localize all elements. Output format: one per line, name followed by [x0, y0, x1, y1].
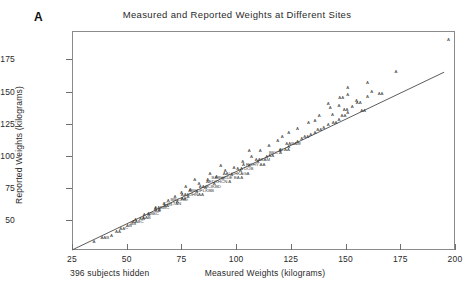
data-point-marker: A [110, 234, 113, 238]
x-axis-tick-mark [72, 244, 73, 250]
data-point-marker: A [447, 38, 450, 42]
x-axis-tick-label: 200 [448, 254, 463, 264]
data-point-marker: A [307, 120, 310, 124]
data-point-marker: A [351, 105, 354, 109]
data-point-marker: A [276, 138, 279, 142]
data-point-marker: A [219, 164, 222, 168]
data-point-marker: A [327, 102, 330, 106]
x-axis-tick-label: 25 [67, 254, 77, 264]
data-point-marker: A [313, 119, 316, 123]
data-point-marker: A [180, 191, 183, 195]
data-point-marker: A [134, 218, 137, 222]
data-point-marker: A [338, 103, 341, 107]
data-point-marker: A [224, 169, 227, 173]
data-point-marker: A [327, 123, 330, 127]
data-point-marker: A [92, 240, 95, 244]
data-point-marker: A [322, 125, 325, 129]
data-point-marker: A [338, 118, 341, 122]
data-point-marker: A [167, 199, 170, 203]
data-point-marker: A [189, 187, 192, 191]
data-point-marker: A [184, 185, 187, 189]
y-axis-tick-label: 50 [0, 215, 15, 225]
x-axis-tick-label: 150 [338, 254, 353, 264]
x-axis-tick-mark [236, 244, 237, 250]
y-axis-tick-label: 75 [0, 183, 15, 193]
hidden-subjects-note: 396 subjects hidden [70, 268, 149, 278]
x-axis-tick-mark [346, 244, 347, 250]
y-axis-tick-mark [66, 92, 72, 93]
data-point-marker: A [215, 174, 218, 178]
data-point-marker: A [329, 106, 332, 110]
y-axis-tick-mark [66, 156, 72, 157]
chart-title: Measured and Reported Weights at Differe… [0, 9, 474, 20]
reference-line-layer [72, 31, 455, 250]
x-axis-label: Measured Weights (kilograms) [150, 268, 380, 278]
data-point-marker: A [394, 70, 397, 74]
x-axis-tick-label: 50 [122, 254, 132, 264]
data-point-marker: A A DOB [236, 167, 253, 171]
data-point-marker: A [143, 213, 146, 217]
data-point-marker: AABJHNAA [181, 192, 204, 196]
data-point-marker: A [318, 114, 321, 118]
data-point-marker: AA [378, 92, 384, 96]
data-point-marker: A [241, 160, 244, 164]
y-axis-tick-mark [66, 220, 72, 221]
y-axis-tick-label: 150 [0, 87, 15, 97]
data-point-marker: AA [343, 107, 349, 111]
data-point-marker: AAJKJKBD [199, 185, 221, 189]
data-point-marker: A [250, 155, 253, 159]
y-axis-tick-mark [66, 59, 72, 60]
data-point-marker: A [346, 93, 349, 97]
y-axis-tick-mark [66, 188, 72, 189]
data-point-marker: A [233, 165, 236, 169]
data-point-marker: A [154, 207, 157, 211]
data-point-marker: A [193, 178, 196, 182]
data-point-marker: AEDXHCN A [206, 179, 231, 183]
plot-area: AAABAAAAACABBBAABCAAAABAABBCAAAAABBCAACC… [72, 31, 455, 250]
data-point-marker: A [248, 149, 251, 153]
data-point-marker: AA [338, 96, 344, 100]
x-axis-tick-label: 100 [229, 254, 244, 264]
data-point-marker: A [296, 140, 299, 144]
x-axis-tick-label: 125 [283, 254, 298, 264]
data-point-marker: A [366, 80, 369, 84]
data-point-marker: A [268, 143, 271, 147]
data-point-marker: A [208, 172, 211, 176]
x-axis-tick-label: 175 [393, 254, 408, 264]
data-point-marker: AA [360, 109, 366, 113]
data-point-marker: A [197, 182, 200, 186]
x-axis-tick-mark [455, 244, 456, 250]
data-point-marker: A [370, 89, 373, 93]
data-point-marker: A [331, 112, 334, 116]
x-axis-tick-mark [127, 244, 128, 250]
data-point-marker: A [173, 195, 176, 199]
x-axis-tick-mark [181, 244, 182, 250]
data-point-marker: A [206, 178, 209, 182]
data-point-marker: A [366, 94, 369, 98]
y-axis-tick-label: 125 [0, 119, 15, 129]
data-point-marker: A [281, 134, 284, 138]
data-point-marker: A [162, 201, 165, 205]
data-point-marker: A [309, 133, 312, 137]
y-axis-label: Reported Weights (kilograms) [14, 65, 24, 225]
data-point-marker: ABKDFLKBB [188, 188, 214, 192]
data-point-marker: A [287, 131, 290, 135]
data-point-marker: A [346, 111, 349, 115]
data-point-marker: A RGHY AA [242, 163, 265, 167]
y-axis-tick-label: 175 [0, 54, 15, 64]
x-axis-tick-mark [291, 244, 292, 250]
data-point-marker: A [355, 98, 358, 102]
x-axis-tick-label: 75 [176, 254, 186, 264]
data-point-marker: A [259, 149, 262, 153]
chart-root: A Measured and Reported Weights at Diffe… [0, 0, 474, 296]
y-axis-tick-label: 100 [0, 151, 15, 161]
data-point-marker: A [296, 127, 299, 131]
data-point-marker: AAB [100, 236, 109, 240]
y-axis-tick-mark [66, 124, 72, 125]
data-point-marker: A [346, 85, 349, 89]
x-axis-tick-mark [400, 244, 401, 250]
